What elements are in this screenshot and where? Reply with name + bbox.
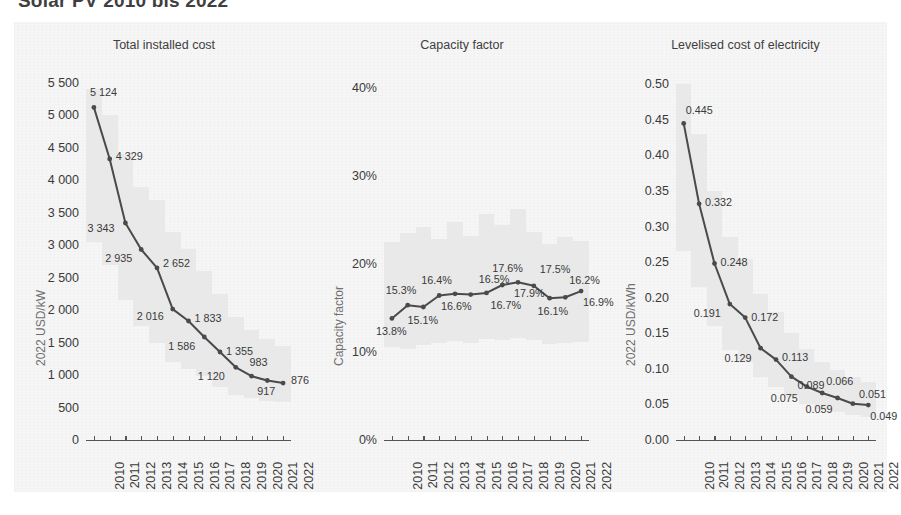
x-tick-label: 2017 bbox=[521, 462, 535, 490]
x-tick-label: 2018 bbox=[537, 462, 551, 490]
x-tick-label: 2021 bbox=[872, 462, 886, 490]
data-point-label: 2 652 bbox=[163, 257, 190, 269]
data-point-label: 0.113 bbox=[782, 351, 808, 363]
x-tick-label: 2019 bbox=[841, 462, 855, 490]
x-tick-label: 2014 bbox=[764, 462, 778, 490]
chart-panel-1: Total installed cost2022 USD/kW05001 000… bbox=[14, 22, 314, 492]
data-point-label: 1 586 bbox=[168, 340, 195, 352]
data-point-label: 876 bbox=[291, 374, 309, 386]
y-tick-label: 500 bbox=[58, 401, 79, 415]
data-point-label: 5 124 bbox=[90, 86, 117, 98]
data-point-label: 0.191 bbox=[694, 307, 721, 319]
figure-panel: Total installed cost2022 USD/kW05001 000… bbox=[14, 22, 887, 492]
y-tick-label: 0.35 bbox=[645, 184, 669, 198]
x-tick-label: 2012 bbox=[442, 462, 456, 490]
y-tick-label: 0.50 bbox=[645, 77, 669, 91]
data-point-label: 2 016 bbox=[137, 310, 164, 322]
x-tick-label: 2014 bbox=[474, 462, 488, 490]
data-point-label: 4 329 bbox=[116, 150, 143, 162]
y-tick-label: 0.00 bbox=[645, 433, 669, 447]
x-tick-label: 2013 bbox=[160, 462, 174, 490]
x-tick-label: 2020 bbox=[856, 462, 870, 490]
x-tick-label: 2015 bbox=[490, 462, 504, 490]
data-point-label: 0.051 bbox=[859, 388, 886, 400]
x-tick-label: 2011 bbox=[426, 461, 440, 488]
x-tick-label: 2010 bbox=[113, 462, 127, 490]
chart-title: Levelised cost of electricity bbox=[604, 38, 887, 52]
plot-area: 05001 0001 5002 0002 5003 0003 5004 0004… bbox=[86, 70, 291, 440]
y-tick-label: 0 bbox=[72, 433, 79, 447]
x-tick-label: 2011 bbox=[128, 461, 142, 488]
chart-title: Total installed cost bbox=[14, 38, 314, 52]
x-tick-label: 2017 bbox=[223, 462, 237, 490]
data-point-label: 1 833 bbox=[195, 312, 222, 324]
data-point-label: 15.1% bbox=[407, 314, 438, 326]
series-line bbox=[384, 70, 589, 440]
y-tick-label: 5 000 bbox=[48, 108, 79, 122]
plot-area: 0.000.050.100.150.200.250.300.350.400.45… bbox=[676, 70, 876, 440]
y-tick-label: 3 000 bbox=[48, 238, 79, 252]
x-tick-label: 2017 bbox=[810, 462, 824, 490]
y-tick-label: 0.10 bbox=[645, 362, 669, 376]
data-point-label: 16.7% bbox=[491, 299, 522, 311]
x-tick-label: 2016 bbox=[505, 462, 519, 490]
x-tick-label: 2019 bbox=[255, 462, 269, 490]
y-tick-label: 10% bbox=[352, 345, 377, 359]
data-point-label: 0.332 bbox=[705, 196, 732, 208]
chart-title: Capacity factor bbox=[312, 38, 612, 52]
x-tick-label: 2015 bbox=[780, 462, 794, 490]
x-tick-label: 2020 bbox=[270, 462, 284, 490]
x-tick-label: 2022 bbox=[887, 462, 901, 490]
data-point-label: 16.6% bbox=[441, 300, 472, 312]
y-tick-label: 0.25 bbox=[645, 255, 669, 269]
y-tick-label: 1 500 bbox=[48, 336, 79, 350]
y-tick-label: 1 000 bbox=[48, 368, 79, 382]
x-tick-label: 2010 bbox=[411, 462, 425, 490]
data-point-label: 17.5% bbox=[540, 263, 571, 275]
y-tick-label: 30% bbox=[352, 169, 377, 183]
x-tick-label: 2013 bbox=[458, 462, 472, 490]
data-point-label: 0.248 bbox=[720, 256, 747, 268]
y-tick-label: 0% bbox=[359, 433, 377, 447]
y-tick-label: 4 500 bbox=[48, 141, 79, 155]
data-point-label: 0.075 bbox=[771, 392, 798, 404]
data-point-label: 16.1% bbox=[538, 305, 569, 317]
chart-panel-2: Capacity factorCapacity factor0%10%20%30… bbox=[312, 22, 612, 492]
y-tick-label: 0.30 bbox=[645, 220, 669, 234]
x-tick-label: 2010 bbox=[703, 462, 717, 490]
data-point-label: 17.9% bbox=[514, 287, 545, 299]
y-tick-label: 0.15 bbox=[645, 326, 669, 340]
y-tick-label: 4 000 bbox=[48, 173, 79, 187]
data-point-label: 0.066 bbox=[826, 375, 853, 387]
data-point-label: 16.4% bbox=[421, 274, 452, 286]
x-tick-label: 2021 bbox=[584, 462, 598, 490]
data-point-label: 16.2% bbox=[569, 274, 600, 286]
x-tick-label: 2014 bbox=[176, 462, 190, 490]
x-tick-label: 2015 bbox=[192, 462, 206, 490]
y-tick-label: 0.45 bbox=[645, 113, 669, 127]
y-tick-label: 0.05 bbox=[645, 397, 669, 411]
data-point-label: 2 935 bbox=[105, 252, 132, 264]
x-tick-label: 2018 bbox=[826, 462, 840, 490]
y-tick-label: 5 500 bbox=[48, 76, 79, 90]
y-tick-label: 40% bbox=[352, 81, 377, 95]
page-title: Solar PV 2010 bis 2022 bbox=[18, 0, 228, 12]
y-tick-label: 3 500 bbox=[48, 206, 79, 220]
x-tick-label: 2013 bbox=[749, 462, 763, 490]
y-axis-title: Capacity factor bbox=[332, 286, 346, 366]
x-tick-label: 2020 bbox=[568, 462, 582, 490]
x-tick-label: 2019 bbox=[553, 462, 567, 490]
data-point-label: 17.6% bbox=[492, 262, 523, 274]
x-tick-label: 2018 bbox=[239, 462, 253, 490]
y-tick-label: 0.20 bbox=[645, 291, 669, 305]
data-point-label: 13.8% bbox=[376, 325, 407, 337]
data-point-label: 1 120 bbox=[198, 370, 225, 382]
plot-area: 0%10%20%30%40%20102011201220132014201520… bbox=[384, 70, 589, 440]
x-tick-label: 2012 bbox=[144, 462, 158, 490]
x-tick-label: 2016 bbox=[795, 462, 809, 490]
data-point-label: 0.049 bbox=[870, 410, 897, 422]
y-tick-label: 2 000 bbox=[48, 303, 79, 317]
data-point-label: 917 bbox=[257, 385, 275, 397]
data-point-label: 0.089 bbox=[797, 379, 824, 391]
data-point-label: 983 bbox=[250, 356, 268, 368]
